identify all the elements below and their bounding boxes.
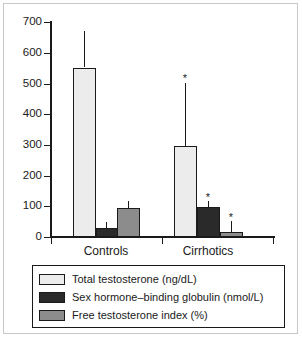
y-tick-label-200-wrap: 200 — [0, 170, 42, 182]
error-bar-controls-total-testosterone — [84, 31, 85, 67]
legend-label-free-testosterone-index: Free testosterone index (%) — [72, 310, 208, 321]
legend-label-shbg: Sex hormone–binding globulin (nmol/L) — [72, 292, 263, 303]
bar-controls-shbg — [96, 228, 118, 237]
legend-swatch-shbg — [39, 292, 65, 303]
x-tick-left — [51, 238, 52, 244]
legend-swatch-free-testosterone-index — [39, 310, 65, 321]
y-tick-label-700: 700 — [2, 16, 42, 28]
y-tick-label-200: 200 — [2, 170, 42, 182]
legend-item-total-testosterone: Total testosterone (ng/dL) — [39, 270, 284, 288]
y-tick-label-500: 500 — [2, 78, 42, 90]
y-tick-label-100-wrap: 100 — [0, 200, 42, 212]
y-axis-line — [50, 21, 52, 238]
chart-figure: 700 600 500 400 300 200 100 0 — [0, 0, 302, 339]
legend-item-free-testosterone-index: Free testosterone index (%) — [39, 306, 284, 324]
y-tick-700 — [44, 22, 50, 23]
chart-legend: Total testosterone (ng/dL) Sex hormone–b… — [32, 265, 285, 328]
y-tick-label-600: 600 — [2, 47, 42, 59]
y-tick-300 — [44, 145, 50, 146]
y-tick-200 — [44, 176, 50, 177]
y-tick-0 — [44, 237, 50, 238]
y-tick-label-400: 400 — [2, 108, 42, 120]
x-group-label-controls: Controls — [66, 245, 146, 257]
y-tick-500 — [44, 84, 50, 85]
y-tick-600 — [44, 53, 50, 54]
y-tick-label-0-wrap: 0 — [0, 231, 42, 243]
error-bar-cirrhotics-total-testosterone — [185, 83, 186, 147]
x-tick-mid — [162, 238, 163, 244]
y-tick-400 — [44, 114, 50, 115]
y-tick-100 — [44, 206, 50, 207]
y-tick-label-0: 0 — [2, 231, 42, 243]
y-tick-label-500-wrap: 500 — [0, 78, 42, 90]
bar-controls-total-testosterone — [73, 68, 96, 237]
bar-controls-free-testosterone-index — [117, 208, 140, 237]
x-group-label-cirrhotics: Cirrhotics — [168, 245, 248, 257]
legend-label-total-testosterone: Total testosterone (ng/dL) — [72, 274, 197, 285]
bar-cirrhotics-free-testosterone-index — [220, 232, 243, 237]
error-bar-controls-free-testosterone-index — [128, 201, 129, 208]
bar-cirrhotics-shbg — [197, 207, 220, 237]
y-tick-label-100: 100 — [2, 200, 42, 212]
x-tick-right — [273, 238, 274, 244]
legend-swatch-total-testosterone — [39, 274, 65, 285]
y-tick-label-400-wrap: 400 — [0, 108, 42, 120]
y-tick-label-300: 300 — [2, 139, 42, 151]
bar-cirrhotics-total-testosterone — [174, 146, 197, 237]
error-bar-cirrhotics-free-testosterone-index — [231, 221, 232, 232]
y-tick-label-300-wrap: 300 — [0, 139, 42, 151]
y-tick-label-700-wrap: 700 — [0, 16, 42, 28]
plot-area: 700 600 500 400 300 200 100 0 — [0, 0, 302, 262]
y-tick-label-600-wrap: 600 — [0, 47, 42, 59]
legend-item-shbg: Sex hormone–binding globulin (nmol/L) — [39, 288, 284, 306]
